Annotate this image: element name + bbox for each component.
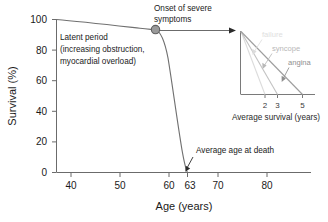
inset-label-syncope: syncope	[272, 44, 300, 53]
x-tick-label-40: 40	[65, 180, 77, 191]
x-tick-label-80: 80	[261, 180, 273, 191]
inset-x-tick-label-5: 5	[300, 101, 305, 110]
latent-period-line-1: Latent period	[60, 33, 108, 42]
y-tick-label-40: 40	[36, 106, 48, 117]
inset-x-tick-label-2: 2	[263, 101, 268, 110]
y-tick-label-20: 20	[36, 136, 48, 147]
inset-x-tick-label-3: 3	[275, 101, 280, 110]
y-tick-label-60: 60	[36, 75, 48, 86]
latent-period-line-2: (increasing obstruction,	[60, 45, 145, 54]
x-tick-label-50: 50	[114, 180, 126, 191]
y-axis-title: Survival (%)	[6, 66, 18, 125]
inset-x-axis-title: Average survival (years)	[232, 113, 320, 122]
y-tick-label-100: 100	[30, 14, 47, 25]
y-tick-label-0: 0	[41, 167, 47, 178]
onset-line-2: symptoms	[154, 15, 191, 24]
inset-label-angina: angina	[288, 58, 312, 67]
chart-canvas: 100 80 60 40 20 0 Survival (%) 40 50 60 …	[0, 0, 328, 222]
onset-line-1: Onset of severe	[154, 4, 212, 13]
onset-marker-dot[interactable]	[151, 25, 159, 33]
y-tick-label-80: 80	[36, 45, 48, 56]
x-axis-title: Age (years)	[156, 200, 213, 212]
average-age-at-death-label: Average age at death	[196, 146, 275, 155]
x-tick-label-60: 60	[163, 180, 175, 191]
x-tick-label-63: 63	[184, 180, 196, 191]
onset-marker[interactable]	[151, 25, 159, 33]
inset-label-failure: failure	[262, 30, 283, 39]
survival-curve-figure: 100 80 60 40 20 0 Survival (%) 40 50 60 …	[0, 0, 328, 222]
x-tick-label-70: 70	[212, 180, 224, 191]
latent-period-line-3: myocardial overload)	[60, 57, 136, 66]
